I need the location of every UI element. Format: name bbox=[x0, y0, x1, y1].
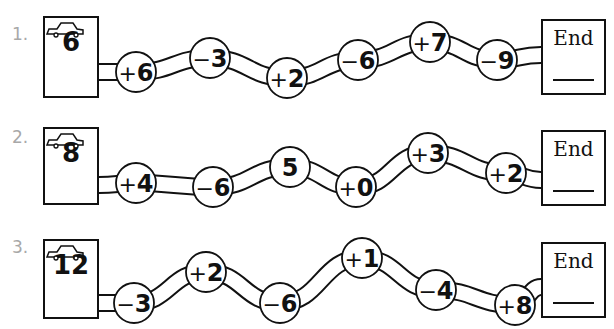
step-operator: − bbox=[192, 47, 210, 72]
car-icon bbox=[45, 20, 85, 38]
step-operator: − bbox=[479, 49, 497, 74]
step-operator: + bbox=[412, 31, 430, 56]
step-number: 6 bbox=[137, 59, 154, 87]
problem-2: +4−65+0+3+2 2. 8 End bbox=[0, 105, 614, 215]
step-value: +0 bbox=[338, 174, 373, 202]
end-box: End bbox=[541, 242, 606, 318]
step-operator: + bbox=[488, 162, 506, 187]
problem-1: +6−3+2−6+7−9 1. 6 End bbox=[0, 0, 614, 110]
step-number: 2 bbox=[507, 160, 524, 188]
step-value: −3 bbox=[192, 45, 227, 73]
step-value: +2 bbox=[269, 65, 304, 93]
step-value: +3 bbox=[410, 140, 445, 168]
step-operator: + bbox=[344, 247, 362, 272]
step-circle: +1 bbox=[342, 238, 382, 278]
step-circle: +7 bbox=[410, 22, 450, 62]
end-box: End bbox=[541, 19, 606, 95]
step-circle: −4 bbox=[416, 270, 456, 310]
step-operator: − bbox=[116, 292, 134, 317]
step-number: 1 bbox=[363, 245, 380, 273]
answer-blank[interactable] bbox=[553, 79, 594, 81]
step-number: 6 bbox=[359, 47, 376, 75]
problem-3: −3+2−6+1−4+8 3. 12 End bbox=[0, 215, 614, 325]
step-operator: + bbox=[269, 67, 287, 92]
step-circle: −3 bbox=[190, 38, 230, 78]
end-label: End bbox=[543, 26, 604, 50]
step-circle: +4 bbox=[116, 163, 156, 203]
step-circle: +0 bbox=[336, 167, 376, 207]
step-number: 4 bbox=[437, 277, 454, 305]
step-operator: − bbox=[195, 176, 213, 201]
step-number: 3 bbox=[135, 290, 152, 318]
car-icon bbox=[45, 243, 85, 261]
step-number: 2 bbox=[207, 259, 224, 287]
step-number: 4 bbox=[137, 170, 154, 198]
step-circle: 5 bbox=[270, 147, 310, 187]
problem-number: 3. bbox=[12, 237, 28, 257]
answer-blank[interactable] bbox=[553, 190, 594, 192]
step-value: +2 bbox=[188, 259, 223, 287]
step-number: 6 bbox=[214, 174, 231, 202]
step-value: −9 bbox=[479, 47, 514, 75]
step-value: +1 bbox=[344, 245, 379, 273]
step-operator: + bbox=[118, 172, 136, 197]
step-circle: +6 bbox=[116, 52, 156, 92]
step-circle: +2 bbox=[186, 252, 226, 292]
step-value: −4 bbox=[418, 277, 453, 305]
car-icon bbox=[45, 131, 85, 149]
step-circle: −6 bbox=[193, 167, 233, 207]
start-box: 6 bbox=[43, 16, 99, 98]
step-number: 9 bbox=[498, 47, 515, 75]
step-number: 8 bbox=[516, 292, 533, 320]
step-number: 3 bbox=[211, 45, 228, 73]
step-number: 0 bbox=[357, 174, 374, 202]
step-operator: − bbox=[418, 279, 436, 304]
step-number: 6 bbox=[281, 290, 298, 318]
step-operator: − bbox=[262, 292, 280, 317]
step-number: 2 bbox=[288, 65, 305, 93]
step-circle: −6 bbox=[260, 283, 300, 323]
step-operator: − bbox=[340, 49, 358, 74]
step-circle: −9 bbox=[477, 40, 517, 80]
step-value: −3 bbox=[116, 290, 151, 318]
step-operator: + bbox=[118, 61, 136, 86]
end-label: End bbox=[543, 249, 604, 273]
end-label: End bbox=[543, 137, 604, 161]
step-circle: +3 bbox=[408, 133, 448, 173]
step-number: 3 bbox=[429, 140, 446, 168]
start-box: 8 bbox=[43, 127, 99, 205]
step-value: −6 bbox=[340, 47, 375, 75]
step-operator: + bbox=[410, 142, 428, 167]
start-box: 12 bbox=[43, 239, 99, 319]
step-circle: −3 bbox=[114, 283, 154, 323]
step-circle: +2 bbox=[267, 58, 307, 98]
step-value: +7 bbox=[412, 29, 447, 57]
problem-number: 1. bbox=[12, 24, 28, 44]
step-value: +4 bbox=[118, 170, 153, 198]
step-value: +8 bbox=[497, 292, 532, 320]
step-operator: + bbox=[338, 176, 356, 201]
step-circle: +8 bbox=[495, 285, 535, 325]
step-value: +6 bbox=[118, 59, 153, 87]
step-value: −6 bbox=[195, 174, 230, 202]
step-number: 7 bbox=[431, 29, 448, 57]
step-value: 5 bbox=[282, 154, 299, 182]
step-circle: +2 bbox=[486, 153, 526, 193]
end-box: End bbox=[541, 130, 606, 206]
step-operator: + bbox=[188, 261, 206, 286]
step-circle: −6 bbox=[338, 40, 378, 80]
step-value: +2 bbox=[488, 160, 523, 188]
step-value: −6 bbox=[262, 290, 297, 318]
step-operator: + bbox=[497, 294, 515, 319]
step-number: 5 bbox=[282, 154, 299, 182]
answer-blank[interactable] bbox=[553, 302, 594, 304]
problem-number: 2. bbox=[12, 127, 28, 147]
